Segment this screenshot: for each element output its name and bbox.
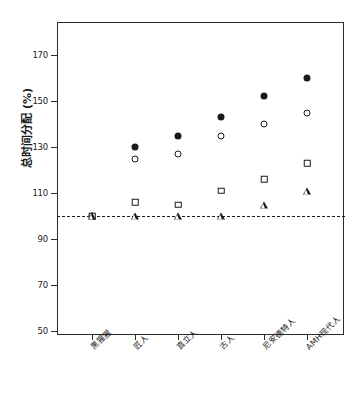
data-point-filled-circle — [304, 75, 311, 82]
y-tick-label: 150 — [24, 96, 48, 106]
x-tick-label: 古人 — [217, 332, 237, 352]
data-point-filled-circle — [132, 144, 139, 151]
data-point-filled-circle — [175, 132, 182, 139]
plot-area — [57, 22, 344, 335]
reference-line-100 — [57, 216, 345, 217]
y-tick-label: 90 — [24, 234, 48, 244]
data-point-open-square — [304, 160, 311, 167]
x-tick-label: 匠人 — [131, 332, 151, 352]
data-point-open-circle — [175, 150, 182, 157]
data-point-open-triangle — [303, 187, 311, 194]
data-point-open-circle — [132, 155, 139, 162]
y-tick-label: 130 — [24, 142, 48, 152]
data-point-open-square — [218, 187, 225, 194]
data-point-open-triangle — [260, 201, 268, 208]
data-point-filled-circle — [218, 114, 225, 121]
data-point-filled-circle — [261, 93, 268, 100]
data-point-open-triangle — [217, 213, 225, 220]
data-point-open-square — [261, 176, 268, 183]
y-tick-label: 50 — [24, 326, 48, 336]
chart-figure: 总时间分配 (%) 170150130110907050 黑猩猩匠人直立人古人尼… — [0, 0, 362, 398]
data-point-open-circle — [218, 132, 225, 139]
data-point-open-triangle — [174, 213, 182, 220]
data-point-open-circle — [261, 121, 268, 128]
y-tick-label: 70 — [24, 280, 48, 290]
y-tick-label: 170 — [24, 50, 48, 60]
data-point-open-triangle — [88, 213, 96, 220]
y-tick-label: 110 — [24, 188, 48, 198]
data-point-open-square — [132, 199, 139, 206]
data-point-open-square — [175, 201, 182, 208]
data-point-open-triangle — [131, 213, 139, 220]
y-axis-label: 总时间分配 (%) — [18, 58, 34, 198]
data-point-open-circle — [304, 109, 311, 116]
